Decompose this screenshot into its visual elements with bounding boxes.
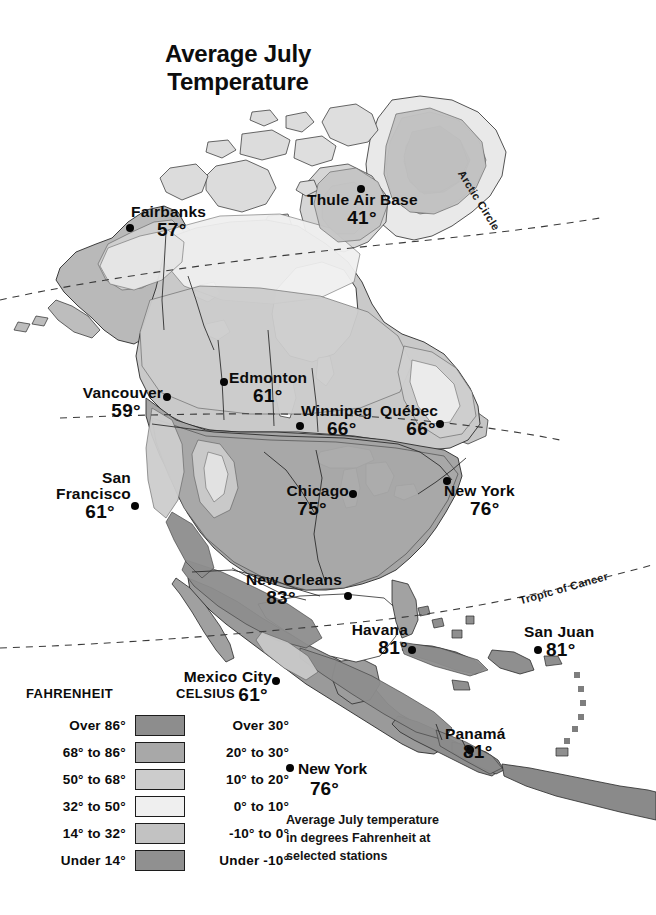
station-temp-fairbanks: 57° — [131, 220, 206, 239]
legend-fahrenheit-label: Under 14° — [24, 853, 135, 868]
station-name-edmonton: Edmonton — [229, 370, 307, 386]
station-temp-sanfrancisco: 61° — [31, 502, 131, 521]
page-title: Average July Temperature — [118, 40, 358, 97]
station-temp-quebec: 66° — [380, 419, 436, 438]
legend-row: 32° to 50° 0° to 10° — [24, 794, 289, 819]
station-name-winnipeg: Winnipeg — [301, 403, 372, 419]
station-label-fairbanks: Fairbanks 57° — [131, 204, 206, 239]
caption-line-1: Average July temperature — [286, 812, 476, 830]
legend-color-swatch — [135, 715, 185, 736]
station-label-sanjuan: San Juan 81° — [524, 624, 595, 659]
title-line-2: Temperature — [118, 68, 358, 96]
legend-header-celsius: CELSIUS — [176, 686, 235, 701]
arctic-island-small-1 — [286, 112, 314, 132]
station-dot-quebec — [436, 420, 444, 428]
station-name-quebec: Québec — [380, 403, 436, 419]
legend-fahrenheit-label: Over 86° — [24, 718, 135, 733]
station-label-neworleans: New Orleans 83° — [238, 572, 350, 607]
station-dot-havana — [408, 646, 416, 654]
example-key-city: New York — [298, 760, 367, 777]
arctic-island-small-2 — [250, 110, 278, 126]
station-name-panama: Panamá — [445, 726, 506, 742]
station-label-newyork: New York 76° — [444, 483, 515, 518]
station-label-chicago: Chicago 75° — [249, 483, 349, 518]
legend-celsius-label: Under -10° — [185, 853, 289, 868]
legend-color-swatch — [135, 742, 185, 763]
station-label-vancouver: Vancouver 59° — [63, 385, 163, 420]
station-label-quebec: Québec 66° — [380, 403, 436, 438]
arctic-island-devon — [294, 136, 336, 166]
station-temp-thule: 41° — [307, 208, 417, 227]
legend-fahrenheit-label: 32° to 50° — [24, 799, 135, 814]
station-label-edmonton: Edmonton 61° — [229, 370, 307, 405]
legend-color-swatch — [135, 823, 185, 844]
station-name-fairbanks: Fairbanks — [131, 204, 206, 220]
station-dot-sanfrancisco — [131, 502, 139, 510]
legend-color-swatch — [135, 796, 185, 817]
legend-celsius-label: -10° to 0° — [185, 826, 289, 841]
caption: Average July temperature in degrees Fahr… — [286, 812, 476, 865]
station-dot-edmonton — [220, 378, 228, 386]
legend-celsius-label: Over 30° — [185, 718, 289, 733]
station-label-winnipeg: Winnipeg 66° — [301, 403, 372, 438]
station-name-sanfrancisco-line2: Francisco — [31, 486, 131, 502]
legend: FAHRENHEIT CELSIUS Over 86° Over 30° 68°… — [24, 686, 289, 875]
example-key: New York 76° — [286, 760, 466, 800]
arctic-island-banks — [160, 164, 208, 200]
arctic-island-small-3 — [206, 140, 236, 158]
station-label-panama: Panamá 81° — [445, 726, 506, 761]
legend-row: Under 14° Under -10° — [24, 848, 289, 873]
station-temp-sanjuan: 81° — [524, 640, 595, 659]
caption-line-3: selected stations — [286, 848, 476, 866]
station-temp-chicago: 75° — [249, 499, 349, 518]
station-name-chicago: Chicago — [249, 483, 349, 499]
south-america-sliver — [502, 764, 656, 820]
legend-header-fahrenheit: FAHRENHEIT — [26, 686, 113, 701]
title-line-1: Average July — [118, 40, 358, 68]
station-label-sanfrancisco: San Francisco 61° — [31, 470, 131, 521]
legend-celsius-label: 0° to 10° — [185, 799, 289, 814]
legend-celsius-label: 10° to 20° — [185, 772, 289, 787]
caption-line-2: in degrees Fahrenheit at — [286, 830, 476, 848]
lesser-antilles-arc — [564, 672, 586, 744]
legend-fahrenheit-label: 14° to 32° — [24, 826, 135, 841]
station-temp-edmonton: 61° — [229, 386, 307, 405]
station-name-neworleans: New Orleans — [238, 572, 350, 588]
station-label-havana: Havana 81° — [348, 622, 408, 657]
arctic-island-victoria — [206, 160, 276, 212]
legend-color-swatch — [135, 769, 185, 790]
legend-row: 50° to 68° 10° to 20° — [24, 767, 289, 792]
legend-row: Over 86° Over 30° — [24, 713, 289, 738]
station-name-newyork: New York — [444, 483, 515, 499]
legend-row: 14° to 32° -10° to 0° — [24, 821, 289, 846]
station-temp-neworleans: 83° — [238, 588, 350, 607]
station-name-havana: Havana — [348, 622, 408, 638]
legend-row: 68° to 86° 20° to 30° — [24, 740, 289, 765]
station-dot-chicago — [349, 490, 357, 498]
station-temp-newyork: 76° — [444, 499, 515, 518]
station-dot-mexicocity — [272, 677, 280, 685]
legend-celsius-label: 20° to 30° — [185, 745, 289, 760]
arctic-island-ellesmere — [322, 104, 378, 146]
aleutian-islands — [14, 316, 48, 332]
example-key-temperature: 76° — [286, 778, 466, 800]
station-temp-havana: 81° — [348, 638, 408, 657]
station-temp-panama: 81° — [445, 742, 506, 761]
station-name-sanfrancisco-line1: San — [31, 470, 131, 486]
example-key-city-line: New York — [286, 760, 466, 778]
station-name-thule: Thule Air Base — [307, 192, 417, 208]
legend-fahrenheit-label: 50° to 68° — [24, 772, 135, 787]
station-temp-vancouver: 59° — [63, 401, 163, 420]
station-label-thule: Thule Air Base 41° — [307, 192, 417, 227]
legend-headers: FAHRENHEIT CELSIUS — [24, 686, 289, 706]
station-temp-winnipeg: 66° — [301, 419, 372, 438]
station-name-vancouver: Vancouver — [63, 385, 163, 401]
station-name-mexicocity: Mexico City — [172, 669, 272, 685]
legend-fahrenheit-label: 68° to 86° — [24, 745, 135, 760]
station-name-sanjuan: San Juan — [524, 624, 595, 640]
arctic-island-melville — [240, 130, 290, 160]
example-key-dot-icon — [286, 764, 294, 772]
station-dot-vancouver — [163, 393, 171, 401]
trinidad-island — [556, 748, 568, 756]
jamaica-island — [452, 680, 470, 690]
